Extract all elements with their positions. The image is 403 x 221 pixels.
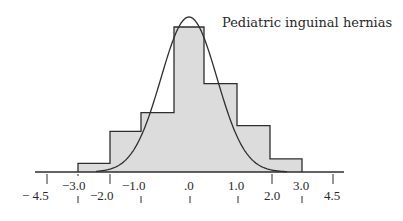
histogram-bar: [174, 27, 204, 172]
histogram-bar: [141, 113, 174, 172]
histogram-bar: [110, 131, 141, 172]
x-tick-label: 3.0: [293, 178, 309, 193]
histogram-bar: [237, 126, 270, 172]
x-tick-label: 1.0: [228, 178, 244, 193]
x-tick-label: −1.0: [122, 178, 146, 193]
x-tick-label: .0: [184, 178, 194, 193]
x-tick-label: − 4.5: [22, 188, 49, 203]
x-tick-label: 2.0: [264, 188, 280, 203]
x-tick-label: 4.5: [324, 188, 340, 203]
histogram-bar: [204, 84, 237, 172]
x-tick-label: −3.0: [62, 178, 86, 193]
x-tick-label: −2.0: [90, 188, 114, 203]
histogram-bars: [78, 27, 302, 172]
histogram-chart: − 4.5−3.0−2.0−1.0.01.02.03.04.5 Pediatri…: [0, 0, 403, 221]
chart-title: Pediatric inguinal hernias: [222, 15, 392, 30]
x-tick-labels: − 4.5−3.0−2.0−1.0.01.02.03.04.5: [22, 178, 340, 203]
